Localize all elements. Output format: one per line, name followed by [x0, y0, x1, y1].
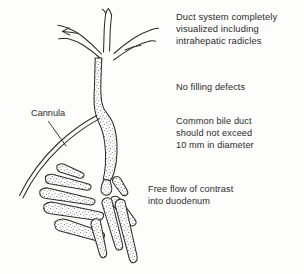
cannula-label: Cannula: [31, 107, 65, 119]
note-duct-system: Duct system completely visualized includ…: [176, 11, 277, 48]
intrahepatic-radicles: [58, 9, 159, 60]
duodenum-folds: [40, 164, 137, 263]
cholangiogram-diagram: Cannula Duct system completely visualize…: [0, 0, 304, 274]
note-free-flow-of-contrast: Free flow of contrast into duodenum: [148, 183, 233, 207]
cannula-leader-line: [49, 122, 67, 147]
note-no-filling-defects: No filling defects: [176, 81, 245, 93]
ampulla-of-vater: [101, 180, 112, 196]
note-common-bile-duct-size: Common bile duct should not exceed 10 mm…: [176, 115, 254, 152]
